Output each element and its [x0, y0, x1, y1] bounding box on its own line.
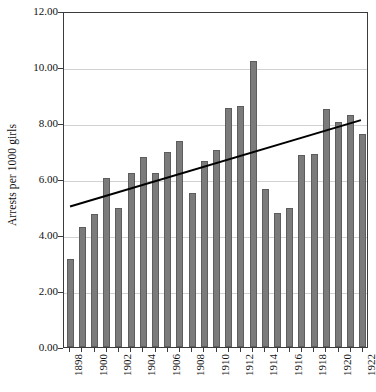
- x-axis: 1898190019021904190619081910191219141916…: [63, 348, 368, 392]
- y-axis-tick-label: 0.00: [10, 342, 58, 353]
- x-axis-tick-mark: [216, 348, 217, 352]
- x-axis-tick-mark: [69, 348, 70, 352]
- y-axis-tick-label: 8.00: [10, 118, 58, 129]
- y-axis-tick-label: 6.00: [10, 174, 58, 185]
- x-axis-tick-mark: [264, 348, 265, 352]
- x-axis-tick-label: 1902: [122, 354, 133, 376]
- x-axis-tick-mark: [277, 348, 278, 352]
- x-axis-tick-mark: [179, 348, 180, 352]
- x-axis-tick-label: 1922: [366, 354, 376, 376]
- x-axis-tick-label: 1916: [293, 354, 304, 376]
- x-axis-tick-mark: [81, 348, 82, 352]
- x-axis-tick-mark: [228, 348, 229, 352]
- x-axis-tick-mark: [106, 348, 107, 352]
- x-axis-tick-label: 1900: [98, 354, 109, 376]
- x-axis-tick-mark: [289, 348, 290, 352]
- x-axis-tick-mark: [142, 348, 143, 352]
- arrests-bar-chart: Arrests per 1000 girls 12.0010.008.006.0…: [0, 0, 376, 392]
- x-axis-tick-mark: [130, 348, 131, 352]
- x-axis-tick-label: 1920: [342, 354, 353, 376]
- x-axis-tick-mark: [338, 348, 339, 352]
- x-axis-tick-mark: [240, 348, 241, 352]
- x-axis-tick-mark: [350, 348, 351, 352]
- x-axis-tick-label: 1898: [73, 354, 84, 376]
- x-axis-tick-label: 1904: [146, 354, 157, 376]
- x-axis-tick-mark: [118, 348, 119, 352]
- x-axis-tick-mark: [203, 348, 204, 352]
- plot-area: [63, 12, 368, 348]
- y-axis-tick-label: 2.00: [10, 286, 58, 297]
- x-axis-tick-mark: [252, 348, 253, 352]
- x-axis-tick-mark: [191, 348, 192, 352]
- x-axis-tick-label: 1914: [268, 354, 279, 376]
- x-axis-tick-mark: [325, 348, 326, 352]
- x-axis-tick-mark: [94, 348, 95, 352]
- x-axis-tick-mark: [155, 348, 156, 352]
- x-axis-tick-mark: [313, 348, 314, 352]
- x-axis-tick-label: 1908: [195, 354, 206, 376]
- x-axis-tick-label: 1912: [244, 354, 255, 376]
- x-axis-tick-mark: [167, 348, 168, 352]
- x-axis-tick-mark: [362, 348, 363, 352]
- x-axis-tick-label: 1910: [220, 354, 231, 376]
- y-axis-tick-label: 12.00: [10, 6, 58, 17]
- x-axis-tick-label: 1906: [171, 354, 182, 376]
- x-axis-tick-label: 1918: [317, 354, 328, 376]
- y-axis-tick-label: 4.00: [10, 230, 58, 241]
- y-axis-tick-label: 10.00: [10, 62, 58, 73]
- x-axis-tick-mark: [301, 348, 302, 352]
- trendline: [64, 13, 367, 347]
